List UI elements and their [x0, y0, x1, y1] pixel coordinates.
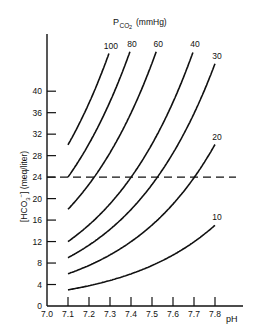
isobar-20: [68, 145, 215, 274]
curve-label-60: 60: [153, 39, 163, 49]
chart-title: P CO 2 (mmHg): [113, 17, 167, 30]
x-tick-label: 7.3: [104, 309, 116, 319]
x-tick-label: 7.5: [146, 309, 158, 319]
x-tick-label: 7.2: [83, 309, 95, 319]
y-tick-label: 8: [37, 258, 42, 268]
curve-label-100: 100: [104, 41, 118, 51]
x-tick-label: 7.0: [41, 309, 53, 319]
y-tick-label: 20: [33, 194, 43, 204]
curve-label-30: 30: [212, 51, 222, 61]
y-tick-label: 12: [33, 237, 43, 247]
axes: 04812162024283236407.07.17.27.37.47.57.6…: [33, 34, 243, 319]
y-tick-label: 32: [33, 129, 43, 139]
y-tick-label: 36: [33, 108, 43, 118]
y-tick-label: 4: [37, 280, 42, 290]
y-tick-label: 40: [33, 86, 43, 96]
isobar-curves: [68, 52, 215, 290]
isobar-10: [68, 225, 215, 290]
y-tick-label: 28: [33, 151, 43, 161]
curve-label-80: 80: [127, 39, 137, 49]
isobar-80: [68, 52, 130, 177]
title-unit: (mmHg): [136, 17, 167, 27]
y-axis-label: [HCO3−] (meq/liter): [18, 151, 31, 222]
x-tick-label: 7.8: [209, 309, 221, 319]
y-tick-label: 24: [33, 172, 43, 182]
y-tick-label: 16: [33, 215, 43, 225]
x-axis-label: pH: [226, 314, 238, 324]
isobar-60: [68, 52, 156, 210]
x-tick-label: 7.1: [62, 309, 74, 319]
x-tick-label: 7.4: [125, 309, 137, 319]
title-sub2: 2: [129, 24, 132, 30]
x-tick-label: 7.6: [167, 309, 179, 319]
title-sub: CO: [120, 22, 130, 29]
curve-label-40: 40: [190, 39, 200, 49]
curve-label-10: 10: [212, 212, 222, 222]
title-main: P: [113, 17, 119, 27]
isobar-100: [68, 54, 109, 145]
pco2-isobar-chart: P CO 2 (mmHg) 04812162024283236407.07.17…: [0, 0, 264, 336]
curve-label-20: 20: [212, 132, 222, 142]
x-tick-label: 7.7: [188, 309, 200, 319]
